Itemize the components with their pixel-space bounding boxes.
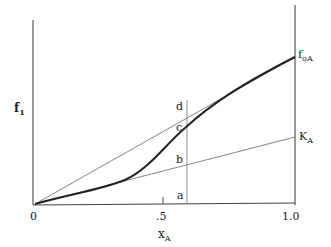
x-tick-1-label: 1.0 [282,211,300,222]
x-tick-0-label: 0 [30,211,37,222]
point-b-label: b [176,154,183,165]
f0A-label: foA [298,49,313,63]
point-c-label: c [176,122,182,133]
chord-line-f0A [35,57,295,204]
x-tick-half-label: .5 [156,211,167,222]
y-axis-label: f1 [14,102,25,116]
KA-label: KA [299,131,313,145]
point-d-label: d [176,101,183,112]
x-axis-label: xA [158,228,171,243]
point-a-label: a [177,190,184,201]
x-axis [33,203,295,205]
